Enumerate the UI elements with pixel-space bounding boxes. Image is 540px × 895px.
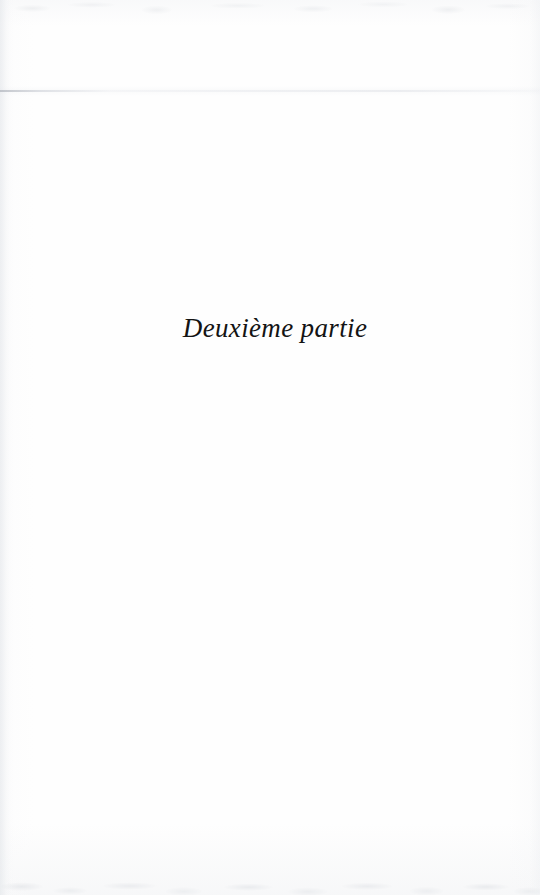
scanned-page: Deuxième partie xyxy=(0,0,540,895)
part-title: Deuxième partie xyxy=(183,312,367,344)
top-edge-scan-noise xyxy=(0,0,540,22)
part-title-block: Deuxième partie xyxy=(0,312,540,344)
bottom-edge-scan-noise xyxy=(0,865,540,895)
left-gutter-shading xyxy=(0,0,14,895)
paper-background xyxy=(0,0,540,895)
horizontal-scan-line xyxy=(0,90,540,92)
scan-streak-halo xyxy=(0,86,540,96)
right-edge-shading xyxy=(530,0,540,895)
